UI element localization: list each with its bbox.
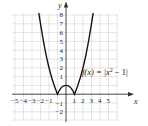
- x-tick: 2: [81, 97, 85, 105]
- x-tick: 4: [98, 97, 102, 105]
- function-label-suffix: − 1|: [113, 67, 128, 77]
- y-tick-labels: 1 2 3 4 5 6 7 8 −1 −2: [56, 11, 64, 116]
- x-axis-label: x: [133, 97, 138, 106]
- x-tick: −3: [28, 97, 36, 105]
- function-graph: y x −5 −4 −3 −2 −1 1 2 3 4 5 1 2 3 4 5 6…: [0, 0, 148, 126]
- y-tick: 7: [60, 20, 64, 28]
- y-tick: 6: [60, 29, 64, 37]
- y-tick: 2: [60, 64, 64, 72]
- x-tick: −5: [11, 97, 19, 105]
- y-tick: 3: [60, 55, 64, 63]
- function-label-prefix: f(x) = |x: [82, 67, 110, 77]
- y-axis-arrow-icon: [64, 2, 68, 8]
- x-tick: 3: [90, 97, 94, 105]
- y-tick: 5: [60, 38, 64, 46]
- y-tick: −2: [56, 108, 64, 116]
- y-tick: 8: [60, 11, 64, 19]
- y-tick: 1: [60, 73, 64, 81]
- x-tick: 1: [73, 97, 77, 105]
- x-axis-arrow-icon: [128, 92, 134, 96]
- y-axis-label: y: [57, 1, 62, 10]
- y-tick: 4: [60, 47, 64, 55]
- x-tick: −4: [20, 97, 28, 105]
- x-tick: −1: [45, 97, 53, 105]
- x-tick: 5: [107, 97, 111, 105]
- x-tick: −2: [37, 97, 45, 105]
- function-label: f(x) = |x2 − 1|: [82, 67, 128, 78]
- y-tick: −1: [56, 100, 64, 108]
